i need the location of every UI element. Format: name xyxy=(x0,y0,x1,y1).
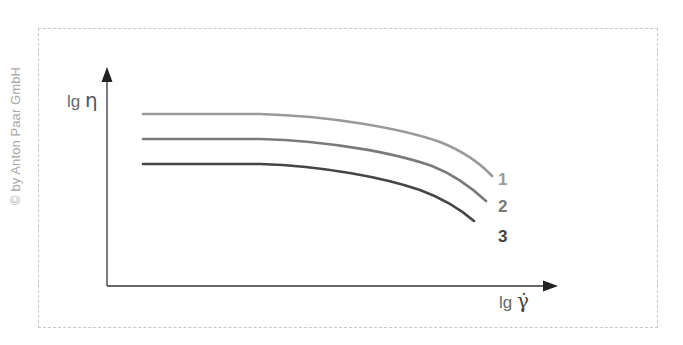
y-axis-label: lg η xyxy=(67,88,98,112)
curve-label-2: 2 xyxy=(498,197,507,217)
curve-label-3: 3 xyxy=(498,227,507,247)
x-axis-label-prefix: lg xyxy=(499,293,512,312)
flow-curve-plot xyxy=(0,0,683,345)
curve-1 xyxy=(143,114,492,176)
gamma-dot-symbol: γ̇ xyxy=(517,289,529,313)
y-axis-label-prefix: lg xyxy=(67,92,80,111)
eta-symbol: η xyxy=(85,88,98,112)
curve-2 xyxy=(143,139,486,201)
curve-label-1: 1 xyxy=(498,170,507,190)
x-axis-arrow-icon xyxy=(543,281,558,292)
curve-3 xyxy=(143,164,474,221)
x-axis-label: lg γ̇ xyxy=(499,289,529,313)
y-axis-arrow-icon xyxy=(102,67,113,82)
